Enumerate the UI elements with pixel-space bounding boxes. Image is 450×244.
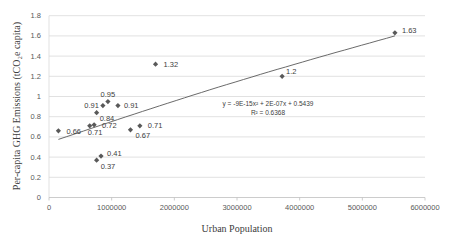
data-label: 1.2 (286, 67, 296, 76)
x-axis-title: Urban Population (202, 223, 273, 234)
data-label: 1.63 (402, 26, 417, 35)
diamond-marker (115, 103, 120, 108)
diamond-marker (128, 127, 133, 132)
x-tick-label: 4000000 (285, 203, 314, 212)
diamond-marker (94, 110, 99, 115)
data-label: 0.71 (88, 128, 103, 137)
x-tick-label: 3000000 (222, 203, 251, 212)
data-label: 1.32 (164, 60, 179, 69)
x-tick-label: 5000000 (348, 203, 377, 212)
data-label: 0.71 (148, 121, 163, 130)
y-tick-label: 1.8 (31, 11, 41, 20)
x-tick-label: 1000000 (97, 203, 126, 212)
data-label: 0.41 (107, 149, 122, 158)
data-label: 0.67 (135, 131, 150, 140)
data-label: 0.91 (84, 101, 99, 110)
y-axis-title: Per-capita GHG Emissions (tCO₂e capita) (11, 22, 23, 190)
y-tick-label: 1.4 (31, 52, 41, 61)
diamond-marker (56, 128, 61, 133)
diamond-marker (137, 123, 142, 128)
y-tick-label: 1 (37, 92, 41, 101)
diamond-marker (94, 158, 99, 163)
trendline-equation: y = -9E-15x² + 2E-07x + 0.5439 (223, 100, 314, 108)
diamond-marker (392, 30, 397, 35)
diamond-marker (100, 103, 105, 108)
scatter-chart: 00.20.40.60.811.21.41.61.8 0100000020000… (0, 0, 450, 244)
data-label: 0.91 (124, 101, 139, 110)
data-label: 0.66 (66, 127, 81, 136)
x-axis-ticks: 0100000020000003000000400000050000006000… (47, 198, 440, 212)
y-tick-label: 0.2 (31, 173, 41, 182)
x-tick-label: 6000000 (410, 203, 439, 212)
y-tick-label: 1.6 (31, 31, 41, 40)
y-tick-label: 0.8 (31, 112, 41, 121)
diamond-marker (105, 99, 110, 104)
data-label: 0.95 (101, 90, 116, 99)
x-tick-label: 0 (47, 203, 51, 212)
y-tick-label: 0.4 (31, 153, 41, 162)
diamond-marker (98, 153, 103, 158)
diamond-marker (280, 74, 285, 79)
trendline-r-squared: R² = 0.6368 (251, 109, 286, 116)
y-tick-label: 1.2 (31, 72, 41, 81)
data-label: 0.84 (100, 114, 115, 123)
y-axis-ticks: 00.20.40.60.811.21.41.61.8 (31, 11, 41, 202)
data-label: 0.37 (101, 162, 116, 171)
data-labels: 0.660.710.720.840.910.950.910.370.410.67… (66, 26, 416, 171)
y-tick-label: 0 (37, 193, 41, 202)
x-tick-label: 2000000 (160, 203, 189, 212)
diamond-marker (153, 62, 158, 67)
y-tick-label: 0.6 (31, 132, 41, 141)
